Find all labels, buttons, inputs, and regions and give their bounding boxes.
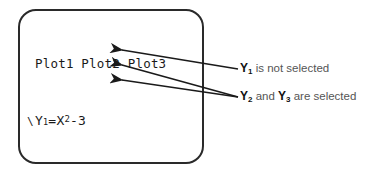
callout-arrows: [0, 0, 370, 173]
label-y1-not-selected: Y1 is not selected: [240, 61, 329, 76]
arrow-y3: [122, 80, 238, 97]
arrow-y1: [122, 50, 238, 69]
label-y2-y3-selected: Y2 and Y3 are selected: [240, 89, 356, 104]
arrow-y2: [122, 65, 238, 97]
